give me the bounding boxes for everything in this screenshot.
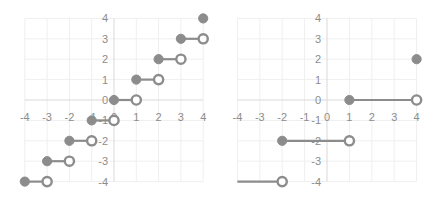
- step-segment: [20, 177, 52, 186]
- open-circle-icon: [65, 157, 74, 166]
- x-tick-label: -4: [233, 111, 243, 123]
- y-tick-label: 0: [315, 94, 321, 106]
- open-circle-icon: [132, 95, 141, 104]
- step-segment: [43, 157, 75, 166]
- filled-dot-icon: [87, 116, 96, 125]
- step-segment: [154, 55, 185, 64]
- x-tick-label: 2: [369, 111, 375, 123]
- step-segment: [237, 177, 286, 186]
- filled-dot-icon: [278, 136, 287, 145]
- y-tick-label: 4: [102, 12, 108, 24]
- x-tick-label: -1: [300, 111, 310, 123]
- step-segment: [132, 75, 164, 84]
- step-segment: [65, 136, 96, 145]
- x-tick-label: -4: [20, 111, 30, 123]
- x-tick-label: -3: [255, 111, 265, 123]
- y-tick-label: -4: [98, 176, 108, 188]
- x-tick-label: 3: [391, 111, 397, 123]
- step-segment: [176, 34, 208, 43]
- filled-dot-icon: [199, 14, 208, 23]
- chart-left: -4-3-2-10123443210-1-2-3-4: [0, 0, 220, 199]
- filled-dot-icon: [412, 55, 421, 64]
- open-circle-icon: [199, 34, 208, 43]
- open-circle-icon: [176, 55, 185, 64]
- x-tick-label: 4: [414, 111, 420, 123]
- x-tick-label: 3: [178, 111, 184, 123]
- filled-dot-icon: [65, 136, 74, 145]
- y-tick-label: 2: [315, 53, 321, 65]
- x-tick-label: -2: [65, 111, 75, 123]
- open-circle-icon: [154, 75, 163, 84]
- filled-dot-icon: [43, 157, 52, 166]
- filled-dot-icon: [20, 177, 29, 186]
- x-tick-label: 2: [156, 111, 162, 123]
- open-circle-icon: [412, 95, 421, 104]
- x-tick-label: 1: [346, 111, 352, 123]
- step-segment: [109, 95, 140, 104]
- x-tick-label: -2: [277, 111, 287, 123]
- y-tick-label: -1: [311, 114, 321, 126]
- filled-dot-icon: [154, 55, 163, 64]
- open-circle-icon: [278, 177, 287, 186]
- y-tick-label: 1: [102, 74, 108, 86]
- chart-right: -4-3-2-10123443210-1-2-3-4: [220, 0, 439, 199]
- y-tick-label: 3: [102, 33, 108, 45]
- open-circle-icon: [87, 136, 96, 145]
- y-tick-label: -4: [311, 176, 321, 188]
- x-tick-label: 4: [200, 111, 206, 123]
- filled-dot-icon: [132, 75, 141, 84]
- x-tick-label: 1: [133, 111, 139, 123]
- y-tick-label: 4: [315, 12, 321, 24]
- open-circle-icon: [345, 136, 354, 145]
- filled-dot-icon: [176, 34, 185, 43]
- open-circle-icon: [43, 177, 52, 186]
- y-tick-label: 3: [315, 33, 321, 45]
- step-segment: [345, 95, 421, 104]
- y-tick-label: -2: [98, 135, 108, 147]
- y-tick-label: -3: [311, 155, 321, 167]
- y-tick-label: 1: [315, 74, 321, 86]
- y-tick-label: 0: [102, 94, 108, 106]
- y-tick-label: 2: [102, 53, 108, 65]
- y-tick-label: -3: [98, 155, 108, 167]
- x-tick-label: -3: [42, 111, 52, 123]
- filled-dot-icon: [345, 95, 354, 104]
- x-tick-label: 0: [324, 111, 330, 123]
- filled-dot-icon: [109, 95, 118, 104]
- open-circle-icon: [109, 116, 118, 125]
